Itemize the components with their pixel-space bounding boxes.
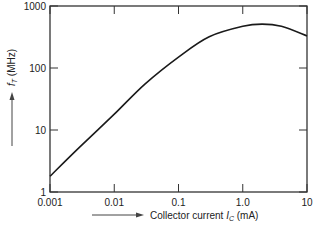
chart: 1101001000 0.0010.010.11.010 fT (MHz) Co… xyxy=(0,0,314,227)
x-tick-label: 0.1 xyxy=(172,197,186,208)
y-axis-label-group: fT (MHz) xyxy=(6,49,18,86)
x-axis-arrow-icon xyxy=(92,213,144,218)
y-axis-arrow-icon xyxy=(10,92,15,146)
y-axis-ticks: 1101001000 xyxy=(24,1,307,198)
x-tick-label: 0.01 xyxy=(105,197,125,208)
x-axis-ticks: 0.0010.010.11.010 xyxy=(37,6,313,208)
y-axis-label: fT (MHz) xyxy=(6,49,18,86)
x-tick-label: 1.0 xyxy=(236,197,250,208)
x-tick-label: 10 xyxy=(301,197,313,208)
y-tick-label: 1000 xyxy=(24,1,47,12)
ft-curve xyxy=(50,24,307,176)
x-axis-label: Collector current IC (mA) xyxy=(150,210,258,222)
x-tick-label: 0.001 xyxy=(37,197,62,208)
plot-frame xyxy=(50,6,307,192)
y-tick-label: 10 xyxy=(35,125,47,136)
y-tick-label: 100 xyxy=(29,63,46,74)
